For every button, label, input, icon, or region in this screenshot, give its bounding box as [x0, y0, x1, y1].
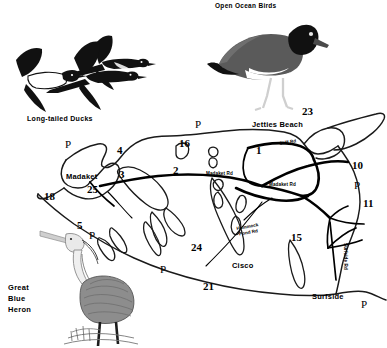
site-marker-24[interactable]: 24 — [191, 242, 202, 253]
place-label-madaket: Madaket — [66, 173, 97, 181]
site-marker-5[interactable]: 5 — [77, 220, 83, 231]
site-marker-23[interactable]: 23 — [302, 106, 313, 117]
site-marker-1[interactable]: 1 — [256, 145, 262, 156]
site-marker-4[interactable]: 4 — [117, 145, 123, 156]
road-label-madaket-rd-west: Madaket Rd — [206, 172, 233, 177]
parking-marker-north-shore[interactable]: P — [195, 119, 201, 130]
ponds-and-inlets — [98, 143, 305, 288]
nantucket-island-map — [0, 100, 387, 320]
road-label-madaket-rd-east: Madaket Rd — [269, 183, 296, 188]
place-label-cisco: Cisco — [232, 262, 253, 270]
site-marker-15[interactable]: 15 — [291, 232, 302, 243]
site-marker-3[interactable]: 3 — [119, 169, 125, 180]
parking-marker-west-south-shore[interactable]: P — [89, 230, 95, 241]
site-marker-25[interactable]: 25 — [87, 184, 98, 195]
open-ocean-birds-caption: Open Ocean Birds — [215, 3, 277, 10]
parking-marker-east[interactable]: P — [354, 180, 360, 191]
parking-marker-surfside[interactable]: P — [361, 299, 367, 310]
island-coastline — [37, 113, 386, 300]
american-oystercatcher-illustration — [205, 12, 330, 112]
parking-marker-cisco[interactable]: P — [160, 264, 166, 275]
site-marker-16[interactable]: 16 — [179, 138, 190, 149]
site-marker-2[interactable]: 2 — [173, 165, 179, 176]
road-label-surfside-rd: Surfside Rd — [342, 243, 347, 270]
place-label-jetties-beach: Jetties Beach — [252, 121, 303, 129]
parking-marker-madaket-north[interactable]: P — [65, 139, 71, 150]
site-marker-11[interactable]: 11 — [363, 198, 373, 209]
birding-map-page: Long-tailed Ducks Open Ocean Birds — [0, 0, 387, 348]
site-marker-10[interactable]: 10 — [352, 160, 363, 171]
place-label-surfside: Surfside — [312, 293, 344, 301]
site-marker-18[interactable]: 18 — [44, 191, 55, 202]
road-network — [90, 143, 364, 280]
site-marker-21[interactable]: 21 — [203, 281, 214, 292]
